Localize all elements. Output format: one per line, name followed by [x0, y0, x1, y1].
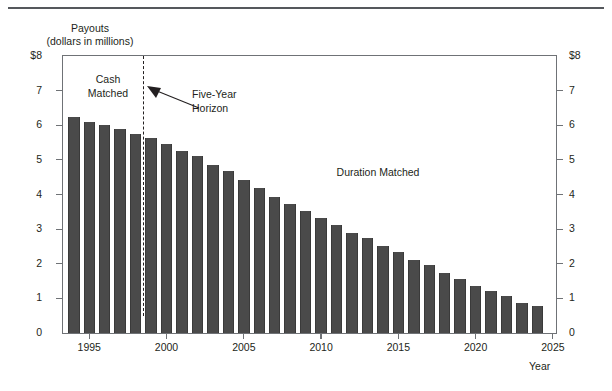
bar [439, 273, 450, 333]
y-tick-label-left: 1 [36, 291, 42, 303]
y-axis-title: Payouts (dollars in millions) [20, 22, 160, 48]
bar [424, 265, 435, 333]
y-tick-label-left: 6 [36, 118, 42, 130]
x-tick [320, 334, 321, 339]
y-tick-right [557, 229, 563, 230]
x-tick [89, 334, 90, 339]
bar [284, 204, 295, 333]
y-tick-label-right: 4 [569, 188, 575, 200]
y-tick-label-right: 3 [569, 222, 575, 234]
bar [114, 129, 125, 333]
x-tick [475, 334, 476, 339]
y-tick-label-right: 6 [569, 118, 575, 130]
bar [315, 218, 326, 333]
x-tick [243, 334, 244, 339]
x-tick-label: 2020 [464, 341, 487, 353]
bar [84, 122, 95, 333]
bar [516, 303, 527, 333]
y-axis-title-line1: Payouts [20, 22, 160, 35]
bar [68, 117, 79, 333]
bar [532, 306, 543, 333]
y-tick-label-right: 7 [569, 84, 575, 96]
bar [192, 156, 203, 333]
y-tick-label-right: 0 [569, 326, 575, 338]
bar [501, 296, 512, 333]
y-tick-left [56, 298, 62, 299]
x-tick [552, 334, 553, 339]
y-tick-right [557, 159, 563, 160]
bar [362, 238, 373, 333]
cash-matched-line2: Matched [70, 87, 146, 101]
x-tick-label: 2025 [541, 341, 564, 353]
x-tick-label: 2005 [232, 341, 255, 353]
horizon-label-line2: Horizon [192, 102, 237, 116]
bar [346, 233, 357, 333]
five-year-horizon-label: Five-Year Horizon [192, 88, 237, 115]
y-tick-right [557, 194, 563, 195]
bar [377, 246, 388, 333]
y-tick-label-right: 5 [569, 153, 575, 165]
bar [393, 252, 404, 333]
y-tick-label-left: $8 [30, 49, 42, 61]
y-tick-right [557, 263, 563, 264]
duration-matched-label: Duration Matched [337, 166, 420, 178]
y-tick-left [56, 90, 62, 91]
bar [145, 138, 156, 333]
bar [130, 134, 141, 333]
y-axis-title-line2: (dollars in millions) [20, 35, 160, 48]
x-tick-label: 2000 [155, 341, 178, 353]
cash-matched-line1: Cash [70, 73, 146, 87]
y-tick-label-left: 2 [36, 257, 42, 269]
y-tick-label-right: $8 [569, 49, 581, 61]
y-tick-left [56, 229, 62, 230]
x-tick-label: 2010 [309, 341, 332, 353]
y-tick-left [56, 263, 62, 264]
x-tick-label: 2015 [387, 341, 410, 353]
bar [207, 165, 218, 333]
y-tick-label-left: 5 [36, 153, 42, 165]
y-tick-label-left: 3 [36, 222, 42, 234]
bar [99, 125, 110, 333]
y-tick-label-left: 7 [36, 84, 42, 96]
bar [223, 171, 234, 333]
bar [331, 225, 342, 333]
y-tick-label-right: 2 [569, 257, 575, 269]
bar [408, 260, 419, 333]
x-tick [166, 334, 167, 339]
payouts-bar-chart: Payouts (dollars in millions) Cash Match… [0, 0, 612, 391]
horizon-label-line1: Five-Year [192, 88, 237, 102]
bar [470, 286, 481, 333]
y-tick-left [56, 159, 62, 160]
bar [254, 188, 265, 333]
x-tick [398, 334, 399, 339]
x-tick-label: 1995 [78, 341, 101, 353]
cash-matched-label: Cash Matched [70, 73, 146, 100]
bar [300, 211, 311, 333]
x-axis-title: Year [529, 360, 550, 372]
bar [454, 279, 465, 333]
y-tick-label-left: 4 [36, 188, 42, 200]
y-tick-label-right: 1 [569, 291, 575, 303]
y-tick-label-left: 0 [36, 326, 42, 338]
bar [269, 197, 280, 333]
bar [485, 291, 496, 333]
y-tick-right [557, 125, 563, 126]
y-tick-left [56, 125, 62, 126]
bar [176, 151, 187, 333]
y-tick-left [56, 194, 62, 195]
bar [238, 180, 249, 333]
y-tick-right [557, 90, 563, 91]
y-tick-right [557, 298, 563, 299]
bar [161, 144, 172, 333]
